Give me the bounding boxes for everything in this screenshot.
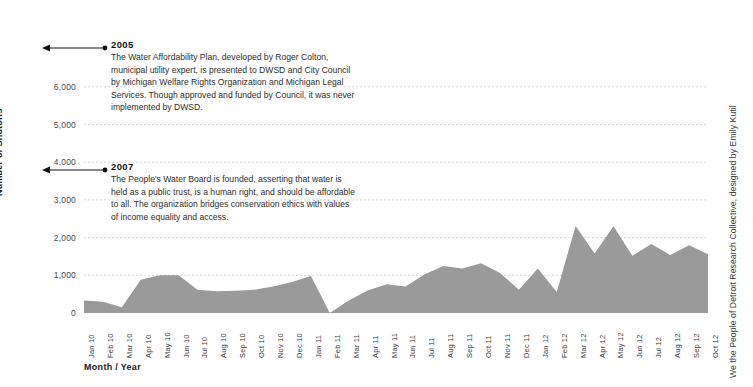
x-tick-label: Jun 10 [182, 334, 191, 358]
y-tick-label: 1,000 [20, 270, 76, 280]
x-tick-label: Mar 10 [125, 333, 134, 358]
x-tick-label: Nov 10 [276, 333, 285, 358]
annotation-leader-arrow-icon [42, 42, 110, 54]
x-tick-label: Aug 10 [219, 333, 228, 358]
x-tick-label: Jul 10 [200, 337, 209, 358]
x-tick-label: Sep 10 [238, 333, 247, 358]
x-tick-label: Oct 11 [484, 335, 493, 358]
x-tick-label: Jan 10 [87, 334, 96, 358]
x-tick-label: Jul 11 [427, 337, 436, 358]
x-tick-label: Nov 11 [503, 334, 512, 358]
annotation-leader-arrow-icon [42, 164, 110, 176]
x-tick-label: Jan 11 [314, 335, 323, 358]
annotation-2005-year: 2005 [111, 39, 356, 50]
chart-page: Number of Shutoffs 01,0002,0003,0004,000… [0, 0, 753, 387]
annotation-2007-year: 2007 [111, 161, 356, 172]
x-tick-label: May 10 [163, 332, 172, 358]
x-tick-label: Feb 12 [560, 333, 569, 358]
x-tick-label: May 11 [390, 333, 399, 358]
y-tick-label: 2,000 [20, 233, 76, 243]
x-tick-label: May 12 [616, 332, 625, 358]
annotation-2007-text: The People's Water Board is founded, ass… [111, 173, 356, 223]
x-tick-label: Jul 12 [654, 337, 663, 358]
x-tick-label: Mar 12 [579, 333, 588, 358]
x-tick-label: Jun 12 [635, 334, 644, 358]
x-tick-label: Apr 12 [598, 335, 607, 358]
y-tick-label: 3,000 [20, 195, 76, 205]
annotation-2005-body: 2005 The Water Affordability Plan, devel… [111, 39, 356, 114]
x-tick-label: Sep 12 [692, 333, 701, 358]
x-axis-tick-labels: Jan 10Feb 10Mar 10Apr 10May 10Jun 10Jul … [84, 316, 708, 362]
x-tick-label: Mar 11 [352, 334, 361, 358]
x-tick-label: Sep 11 [465, 334, 474, 358]
x-axis-title: Month / Year [84, 362, 141, 372]
shutoffs-area-series [84, 226, 708, 313]
x-tick-label: Aug 12 [673, 333, 682, 358]
x-tick-label: Feb 11 [333, 334, 342, 358]
y-axis-title: Number of Shutoffs [0, 108, 4, 196]
x-tick-label: Apr 11 [371, 335, 380, 358]
x-tick-label: Oct 10 [257, 335, 266, 358]
x-tick-label: Dec 10 [295, 333, 304, 358]
annotation-2005-text: The Water Affordability Plan, developed … [111, 51, 356, 114]
x-tick-label: Jan 12 [541, 334, 550, 358]
y-tick-label: 6,000 [20, 82, 76, 92]
y-axis-tick-labels: 01,0002,0003,0004,0005,0006,000 [14, 0, 76, 387]
x-tick-label: Dec 11 [522, 334, 531, 358]
x-tick-label: Jun 11 [408, 335, 417, 358]
credit-line: We the People of Detroit Research Collec… [728, 105, 738, 378]
x-tick-label: Apr 10 [144, 335, 153, 358]
y-tick-label: 0 [20, 308, 76, 318]
x-tick-label: Feb 10 [106, 333, 115, 358]
y-tick-label: 5,000 [20, 120, 76, 130]
annotation-2007-body: 2007 The People's Water Board is founded… [111, 161, 356, 223]
x-tick-label: Aug 11 [446, 334, 455, 358]
x-tick-label: Oct 12 [711, 335, 720, 358]
